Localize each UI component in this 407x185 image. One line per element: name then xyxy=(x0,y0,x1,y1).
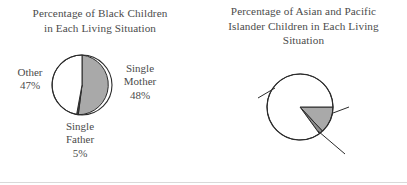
pie-label-single-father-left-line2: Father xyxy=(52,133,108,146)
pie-label-other-left: Other 47% xyxy=(6,66,54,93)
figure-baseline-rule xyxy=(0,182,407,183)
pie-label-single-mother-left-value: 48% xyxy=(112,89,168,102)
pie-chart-right xyxy=(205,58,407,168)
pie-label-single-father-left-line1: Single xyxy=(52,120,108,133)
pie-label-single-father-left-value: 5% xyxy=(52,147,108,160)
chart-title-right-line3: Situation xyxy=(200,33,407,48)
chart-title-right: Percentage of Asian and Pacific Islander… xyxy=(200,4,407,48)
pie-label-single-mother-left: Single Mother 48% xyxy=(112,62,168,102)
chart-title-left-line1: Percentage of Black Children xyxy=(0,6,200,21)
chart-title-left-line2: in Each Living Situation xyxy=(0,21,200,36)
leader-line-single-mother-right xyxy=(333,107,349,113)
chart-title-right-line1: Percentage of Asian and Pacific xyxy=(200,4,407,19)
pie-label-single-mother-left-line2: Mother xyxy=(112,75,168,88)
two-pie-chart-figure: Percentage of Black Children in Each Liv… xyxy=(0,0,407,185)
pie-label-other-left-name: Other xyxy=(6,66,54,79)
chart-title-right-line2: Islander Children in Each Living xyxy=(200,19,407,34)
leader-line-single-father-right xyxy=(318,131,345,154)
pie-label-single-father-left: Single Father 5% xyxy=(52,120,108,160)
pie-slice-other-left xyxy=(52,55,82,114)
pie-label-single-mother-left-line1: Single xyxy=(112,62,168,75)
chart-panel-black-children: Percentage of Black Children in Each Liv… xyxy=(0,0,200,185)
chart-title-left: Percentage of Black Children in Each Liv… xyxy=(0,6,200,35)
pie-label-other-left-value: 47% xyxy=(6,79,54,92)
chart-panel-asian-pacific-islander-children: Percentage of Asian and Pacific Islander… xyxy=(200,0,407,185)
